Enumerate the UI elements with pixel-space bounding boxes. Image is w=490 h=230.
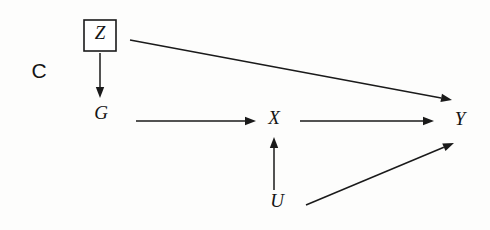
edge-line bbox=[130, 40, 441, 98]
node-y: Y bbox=[455, 108, 468, 129]
node-label-u: U bbox=[270, 190, 285, 211]
arrow-head-icon bbox=[96, 87, 104, 98]
edge-g-x bbox=[136, 117, 256, 125]
causal-diagram-figure: ZGXYU C bbox=[0, 0, 490, 230]
panel-label: C bbox=[31, 59, 46, 82]
edge-u-x bbox=[270, 137, 278, 190]
node-label-x: X bbox=[267, 107, 281, 128]
nodes-layer: ZGXYU bbox=[84, 20, 468, 211]
arrow-head-icon bbox=[423, 117, 434, 125]
arrow-head-icon bbox=[270, 137, 278, 148]
arrow-head-icon bbox=[245, 117, 256, 125]
node-g: G bbox=[94, 102, 108, 123]
edge-line bbox=[306, 147, 444, 205]
edge-z-y bbox=[130, 40, 452, 102]
dag-canvas: ZGXYU C bbox=[0, 0, 490, 230]
node-x: X bbox=[267, 107, 281, 128]
node-label-g: G bbox=[94, 102, 108, 123]
edge-z-g bbox=[96, 53, 104, 98]
edge-x-y bbox=[300, 117, 434, 125]
arrow-head-icon bbox=[442, 143, 454, 151]
node-label-z: Z bbox=[95, 22, 106, 43]
node-label-y: Y bbox=[455, 108, 468, 129]
edge-u-y bbox=[306, 143, 454, 205]
node-z: Z bbox=[84, 20, 116, 51]
arrow-head-icon bbox=[440, 94, 452, 102]
node-u: U bbox=[270, 190, 285, 211]
